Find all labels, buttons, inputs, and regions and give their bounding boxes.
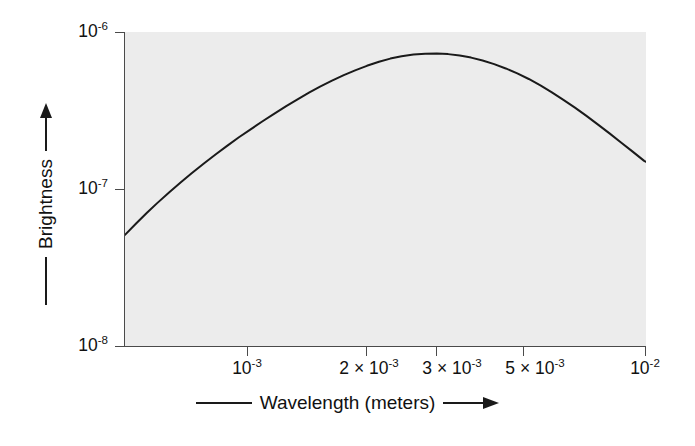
- x-tick-label-5e-3: 5 × 10-3: [505, 358, 564, 379]
- right-arrow-icon: [443, 397, 499, 409]
- x-tick-mark-1e-3: [247, 347, 248, 356]
- y-tick-mark-1e-8: [115, 346, 124, 347]
- x-tick-base: 10: [452, 358, 471, 378]
- y-tick-label-1e-8: 10-8: [38, 335, 108, 356]
- x-tick-label-1e-3: 10-3: [232, 358, 262, 379]
- x-tick-exponent: -3: [471, 357, 481, 369]
- x-tick-exponent: -3: [554, 357, 564, 369]
- x-tick-exponent: -2: [650, 357, 660, 369]
- y-axis-title-rule: [45, 257, 47, 305]
- x-tick-base: 10: [369, 358, 388, 378]
- y-tick-label-1e-6: 10-6: [38, 21, 108, 42]
- y-axis-title: Brightness: [31, 74, 61, 334]
- blackbody-spectrum-figure: 10-6 10-7 10-8 10-3 2 × 10-3 3 × 10-3 5 …: [0, 0, 695, 446]
- x-tick-mark-3e-3: [436, 347, 437, 356]
- blackbody-curve: [125, 54, 646, 235]
- x-tick-label-1e-2: 10-2: [630, 358, 660, 379]
- y-tick-base: 10: [78, 335, 97, 355]
- y-tick-mark-1e-6: [115, 32, 124, 33]
- y-tick-label-1e-7: 10-7: [38, 178, 108, 199]
- x-tick-label-2e-3: 2 × 10-3: [339, 358, 398, 379]
- y-tick-exponent: -8: [98, 334, 108, 346]
- x-tick-mark-2e-3: [366, 347, 367, 356]
- x-tick-exponent: -3: [388, 357, 398, 369]
- x-tick-mantissa: 5 ×: [505, 358, 535, 378]
- y-tick-base: 10: [78, 21, 97, 41]
- spectrum-curve-svg: [125, 32, 646, 346]
- x-tick-mantissa: 3 ×: [422, 358, 452, 378]
- y-tick-base: 10: [78, 178, 97, 198]
- y-tick-exponent: -7: [98, 177, 108, 189]
- x-tick-exponent: -3: [252, 357, 262, 369]
- x-tick-mark-5e-3: [523, 347, 524, 356]
- x-tick-base: 10: [630, 358, 649, 378]
- plot-area: [124, 32, 646, 347]
- x-axis-title-rule: [196, 402, 252, 404]
- x-axis-title: Wavelength (meters): [0, 392, 695, 414]
- x-tick-mantissa: 2 ×: [339, 358, 369, 378]
- y-tick-mark-1e-7: [115, 189, 124, 190]
- x-axis-title-text: Wavelength (meters): [260, 392, 436, 414]
- x-tick-base: 10: [232, 358, 251, 378]
- x-tick-label-3e-3: 3 × 10-3: [422, 358, 481, 379]
- x-tick-base: 10: [535, 358, 554, 378]
- up-arrow-icon: [40, 103, 52, 151]
- x-tick-mark-1e-2: [645, 347, 646, 356]
- y-axis-title-text: Brightness: [35, 159, 57, 249]
- y-tick-exponent: -6: [98, 20, 108, 32]
